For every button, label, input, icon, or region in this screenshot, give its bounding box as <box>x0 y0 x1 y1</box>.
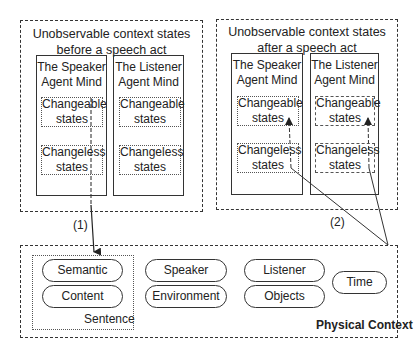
after-listener-changeless: Changeless states <box>315 143 375 173</box>
arrow-label-2: (2) <box>330 215 345 229</box>
before-listener-title: The Listener Agent Mind <box>113 60 184 90</box>
label: states <box>238 158 298 173</box>
title-line1: The Listener <box>310 58 379 73</box>
label: states <box>42 112 102 127</box>
node-time: Time <box>332 271 387 294</box>
after-listener-changeable: Changeable states <box>315 96 375 126</box>
label: states <box>120 160 180 175</box>
label: Changeless <box>316 143 374 158</box>
arrow-label-1: (1) <box>73 218 88 232</box>
node-content: Content <box>42 285 123 308</box>
label: states <box>120 112 180 127</box>
title-line2: Agent Mind <box>231 73 303 88</box>
label: Changeless <box>42 145 102 160</box>
label: states <box>316 111 374 126</box>
label: Changeable <box>316 96 374 111</box>
label: states <box>316 158 374 173</box>
title-line2: Agent Mind <box>36 75 107 90</box>
before-title: Unobservable context states before a spe… <box>20 26 203 58</box>
title-line1: The Listener <box>113 60 184 75</box>
label: Changeable <box>120 97 180 112</box>
node-objects: Objects <box>244 285 325 308</box>
before-listener-changeless: Changeless states <box>119 145 181 175</box>
before-speaker-title: The Speaker Agent Mind <box>36 60 107 90</box>
after-speaker-changeless: Changeless states <box>237 143 299 173</box>
before-speaker-changeable: Changeable states <box>41 97 103 127</box>
before-listener-changeable: Changeable states <box>119 97 181 127</box>
label: Changeable <box>42 97 102 112</box>
physical-context-title: Physical Context <box>316 318 413 332</box>
title-line2: Agent Mind <box>113 75 184 90</box>
sentence-label: Sentence <box>84 312 135 326</box>
node-environment: Environment <box>145 285 227 308</box>
label: Changeless <box>238 143 298 158</box>
label: Changeless <box>120 145 180 160</box>
after-title: Unobservable context states after a spee… <box>216 24 398 56</box>
after-listener-title: The Listener Agent Mind <box>310 58 379 88</box>
after-speaker-title: The Speaker Agent Mind <box>231 58 303 88</box>
before-title-line1: Unobservable context states <box>20 26 203 42</box>
node-listener: Listener <box>244 259 325 282</box>
title-line2: Agent Mind <box>310 73 379 88</box>
title-line1: The Speaker <box>231 58 303 73</box>
after-title-line1: Unobservable context states <box>216 24 398 40</box>
label: states <box>42 160 102 175</box>
label: Changeable <box>238 96 298 111</box>
label: states <box>238 111 298 126</box>
after-speaker-changeable: Changeable states <box>237 96 299 126</box>
node-semantic: Semantic <box>42 259 123 282</box>
node-speaker: Speaker <box>145 259 227 282</box>
title-line1: The Speaker <box>36 60 107 75</box>
before-speaker-changeless: Changeless states <box>41 145 103 175</box>
